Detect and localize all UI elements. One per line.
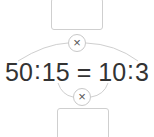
proportion-equation: 50:15=10:3 bbox=[0, 58, 154, 86]
term-a: 50 bbox=[5, 58, 33, 86]
inner-product-answer-box[interactable] bbox=[57, 108, 109, 137]
term-b: 15 bbox=[42, 58, 70, 86]
equals-sign: = bbox=[77, 58, 92, 86]
multiply-icon-outer: × bbox=[68, 34, 86, 52]
term-c: 10 bbox=[98, 58, 126, 86]
ratio-colon: : bbox=[34, 56, 41, 84]
multiply-icon-inner: × bbox=[73, 88, 91, 106]
term-d: 3 bbox=[135, 58, 149, 86]
ratio-colon: : bbox=[127, 56, 134, 84]
